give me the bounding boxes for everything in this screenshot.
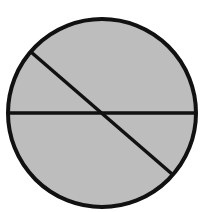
diagram-canvas bbox=[0, 0, 217, 212]
circle-diagram bbox=[0, 0, 217, 212]
